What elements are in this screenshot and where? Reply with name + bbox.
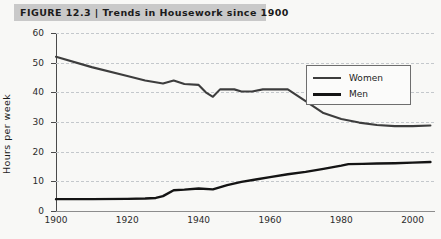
y-axis-title: Hours per week	[1, 94, 12, 174]
series-group	[56, 33, 434, 211]
chart-container: Hours per week 0102030405060 19001920194…	[0, 22, 441, 239]
legend-label-women: Women	[349, 73, 383, 83]
x-tick-label: 2000	[401, 215, 424, 225]
x-tick-label: 1980	[330, 215, 353, 225]
y-tick-mark	[51, 211, 56, 212]
y-tick-label: 0	[0, 206, 44, 216]
y-tick-label: 10	[0, 176, 44, 186]
y-tick-label: 50	[0, 58, 44, 68]
legend-item-men: Men	[307, 86, 410, 102]
y-tick-label: 30	[0, 117, 44, 127]
y-tick-label: 20	[0, 147, 44, 157]
x-tick-label: 1920	[116, 215, 139, 225]
legend-item-women: Women	[307, 70, 410, 86]
figure-root: FIGURE 12.3 | Trends in Housework since …	[0, 0, 441, 239]
legend-label-men: Men	[349, 89, 368, 99]
x-tick-label: 1960	[259, 215, 282, 225]
x-tick-label: 1900	[45, 215, 68, 225]
y-tick-mark	[51, 33, 56, 34]
y-tick-mark	[51, 181, 56, 182]
y-tick-label: 60	[0, 28, 44, 38]
figure-title-bar: FIGURE 12.3 | Trends in Housework since …	[14, 4, 266, 21]
plot-area	[56, 33, 434, 211]
line-swatch-icon-men	[313, 93, 341, 96]
y-tick-mark	[51, 152, 56, 153]
legend: Women Men	[306, 65, 411, 105]
x-tick-label: 1940	[187, 215, 210, 225]
line-swatch-icon-women	[313, 77, 341, 79]
y-tick-mark	[51, 122, 56, 123]
series-line-men	[56, 162, 430, 199]
y-tick-mark	[51, 92, 56, 93]
figure-title: FIGURE 12.3 | Trends in Housework since …	[14, 7, 289, 18]
y-tick-mark	[51, 63, 56, 64]
y-tick-label: 40	[0, 87, 44, 97]
x-axis-line	[56, 211, 435, 212]
